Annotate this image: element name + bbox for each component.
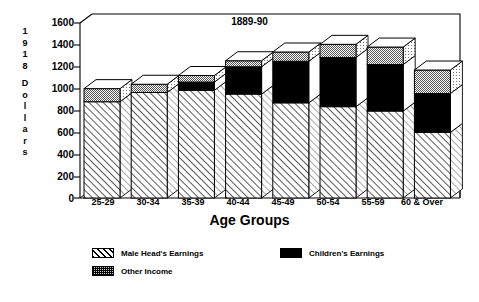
bar-segment-front	[414, 70, 450, 94]
legend-item-male-head-earnings: Male Head's Earnings	[92, 248, 203, 258]
x-tick-label: 35-39	[169, 196, 217, 208]
bar-segment-front	[178, 82, 214, 90]
bar-segment-front	[226, 94, 262, 198]
x-tick-label: 50-54	[304, 196, 352, 208]
bar-segment-front	[84, 102, 120, 198]
bar-segment-front	[226, 67, 262, 94]
legend-label: Other Income	[121, 267, 173, 276]
bar-segment-side	[262, 85, 274, 198]
bar-60-over	[414, 61, 462, 198]
bar-40-44	[226, 52, 274, 198]
bar-segment-front	[131, 92, 167, 198]
bar-segment-front	[414, 94, 450, 133]
legend-swatch-gray-icon	[92, 266, 114, 276]
bar-segment-front	[273, 52, 309, 61]
bar-segment-front	[367, 47, 403, 65]
bar-segment-front	[320, 107, 356, 198]
bar-segment-side	[356, 48, 368, 106]
bar-segment-front	[131, 84, 167, 92]
chart-title: 1889-90	[0, 16, 479, 27]
bar-segment-side	[450, 123, 462, 198]
legend-swatch-hatch-icon	[92, 248, 114, 258]
bar-35-39	[178, 67, 226, 199]
bar-30-34	[131, 75, 179, 198]
bar-45-49	[273, 43, 321, 198]
bar-segment-front	[320, 44, 356, 57]
bar-segment-side	[356, 98, 368, 198]
bar-25-29	[84, 80, 132, 198]
chart-figure: 1 9 1 8 D o l l a r s 1600 1400 1200 100…	[0, 0, 479, 302]
bar-segment-front	[273, 61, 309, 103]
bar-50-54	[320, 35, 368, 198]
bar-segment-front	[178, 90, 214, 198]
bar-segment-front	[367, 111, 403, 198]
bar-segment-front	[273, 103, 309, 198]
x-tick-label: 30-34	[124, 196, 172, 208]
bar-segment-front	[320, 57, 356, 106]
bar-segment-side	[309, 94, 321, 198]
x-tick-label: 40-44	[214, 196, 262, 208]
bar-segment-side	[167, 83, 179, 198]
bar-segment-front	[178, 76, 214, 83]
bar-segment-side	[120, 93, 132, 198]
x-axis-label-text: Age Groups	[189, 212, 289, 228]
bar-segment-front	[414, 132, 450, 198]
bar-group	[84, 35, 462, 198]
x-tick-label: 25-29	[79, 196, 127, 208]
legend-label: Male Head's Earnings	[121, 249, 203, 258]
bar-segment-front	[226, 61, 262, 67]
legend-item-other-income: Other Income	[92, 266, 173, 276]
chart-legend: Male Head's Earnings Children's Earnings…	[0, 246, 479, 288]
bar-55-59	[367, 38, 415, 198]
x-tick-label: 60 & Over	[391, 196, 453, 208]
bar-segment-side	[403, 102, 415, 198]
x-axis-label: Age Groups	[0, 212, 479, 228]
x-axis-tick-labels: 25-29 30-34 35-39 40-44 45-49 50-54 55-5…	[0, 196, 479, 212]
bar-segment-side	[403, 56, 415, 111]
legend-item-childrens-earnings: Children's Earnings	[280, 248, 384, 258]
x-tick-label: 55-59	[349, 196, 397, 208]
bar-segment-front	[84, 89, 120, 102]
legend-swatch-black-icon	[280, 248, 302, 258]
bar-segment-front	[367, 65, 403, 111]
legend-label: Children's Earnings	[309, 249, 384, 258]
x-tick-label: 45-49	[259, 196, 307, 208]
chart-title-text: 1889-90	[211, 16, 268, 27]
bar-segment-side	[214, 81, 226, 198]
